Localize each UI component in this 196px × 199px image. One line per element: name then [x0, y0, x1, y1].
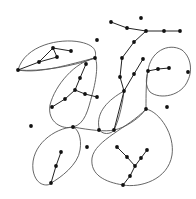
node-m7	[50, 105, 54, 109]
node-y5	[139, 156, 143, 160]
node-y7	[121, 183, 125, 187]
nodes	[16, 16, 190, 187]
graph-diagram	[0, 0, 196, 199]
node-a4	[55, 55, 59, 59]
node-l1	[59, 150, 63, 154]
node-iso1	[139, 16, 143, 20]
node-a2	[37, 60, 41, 64]
node-m5	[95, 95, 99, 99]
loops	[18, 41, 190, 186]
node-iso2	[29, 124, 33, 128]
node-v1	[132, 40, 136, 44]
loop-middle	[50, 58, 97, 128]
node-j2	[112, 128, 116, 132]
loop-center	[99, 91, 124, 134]
node-t2	[125, 26, 129, 30]
node-w1	[141, 57, 145, 61]
node-l3	[49, 181, 53, 185]
node-a5	[69, 49, 73, 53]
node-l2	[54, 164, 58, 168]
node-y1	[115, 145, 119, 149]
node-r4	[186, 70, 190, 74]
node-w2	[132, 72, 136, 76]
node-t4	[162, 29, 166, 33]
node-r3	[167, 66, 171, 70]
node-r2	[156, 67, 160, 71]
node-y2	[125, 155, 129, 159]
node-y3	[133, 164, 137, 168]
connector-arc	[73, 109, 146, 131]
node-iso4	[165, 105, 169, 109]
node-v4	[122, 89, 126, 93]
node-iso3	[85, 145, 89, 149]
node-p1	[97, 128, 101, 132]
node-iso5	[95, 38, 99, 42]
node-t3	[144, 29, 148, 33]
node-m4	[83, 92, 87, 96]
node-m2	[78, 76, 82, 80]
triangle-spur	[53, 48, 71, 51]
loop-lower-left	[33, 127, 81, 185]
node-y4	[145, 148, 149, 152]
node-m3	[73, 88, 77, 92]
node-y6	[128, 174, 132, 178]
node-r1	[146, 69, 150, 73]
node-a3	[51, 46, 55, 50]
node-a6	[93, 56, 97, 60]
node-v3	[118, 75, 122, 79]
node-j1	[71, 125, 75, 129]
node-t1	[109, 20, 113, 24]
node-t5	[178, 29, 182, 33]
edges	[18, 22, 180, 185]
node-m1	[84, 62, 88, 66]
node-j3	[144, 107, 148, 111]
loop-bottom-right	[92, 109, 173, 186]
node-a1	[16, 68, 20, 72]
node-v2	[120, 56, 124, 60]
node-m6	[63, 97, 67, 101]
middle-chain	[52, 64, 86, 107]
loop-right	[146, 47, 190, 96]
